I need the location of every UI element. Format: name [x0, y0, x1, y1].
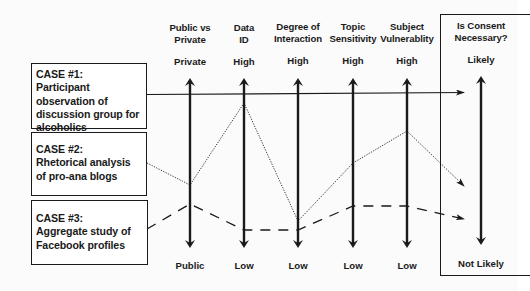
case-3-path	[147, 204, 464, 230]
axis-arrows	[190, 80, 481, 244]
case-1-path	[147, 93, 464, 95]
case-2-path	[147, 103, 464, 221]
